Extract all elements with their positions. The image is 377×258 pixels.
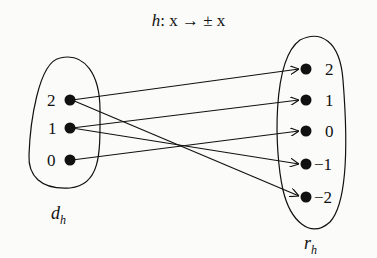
domain-set-subscript: h xyxy=(60,213,66,227)
domain-dot-2 xyxy=(65,95,76,106)
domain-element-label: 1 xyxy=(48,120,57,137)
domain-element-label: 2 xyxy=(47,92,56,109)
arrow-2-to-2 xyxy=(72,69,299,100)
domain-set-letter: d xyxy=(51,203,60,223)
range-element-label: 0 xyxy=(325,123,334,140)
domain-element-label: 0 xyxy=(47,152,56,169)
range-dot-neg2 xyxy=(301,192,312,203)
range-dot-1 xyxy=(301,95,312,106)
range-dot-2 xyxy=(301,64,312,75)
range-element-label: −2 xyxy=(314,189,332,206)
range-element-label: 2 xyxy=(325,61,334,78)
mapping-diagram: h: x → ± x xyxy=(0,0,377,258)
domain-dot-0 xyxy=(65,155,76,166)
arrow-0-to-0 xyxy=(72,131,299,160)
range-element-label: −1 xyxy=(314,156,332,173)
range-dot-neg1 xyxy=(301,159,312,170)
domain-set-outline xyxy=(29,57,100,188)
range-set-label: rh xyxy=(304,233,317,258)
range-element-label: 1 xyxy=(325,92,334,109)
range-set-letter: r xyxy=(304,233,311,253)
range-dot-0 xyxy=(301,126,312,137)
domain-set-label: dh xyxy=(51,203,66,228)
range-set-subscript: h xyxy=(311,243,317,257)
domain-dot-1 xyxy=(65,123,76,134)
